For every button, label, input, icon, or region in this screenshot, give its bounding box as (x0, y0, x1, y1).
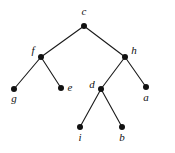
tree-node-a[interactable] (143, 84, 149, 90)
tree-edge-c-h (84, 26, 125, 57)
tree-edge-d-i (80, 89, 101, 127)
tree-diagram: cfhgedaib (0, 0, 175, 153)
tree-node-b[interactable] (119, 124, 125, 130)
tree-node-f[interactable] (38, 54, 44, 60)
tree-edge-c-f (41, 26, 84, 57)
tree-node-label-b: b (119, 131, 125, 143)
tree-node-e[interactable] (58, 85, 64, 91)
tree-edge-h-a (125, 57, 146, 87)
tree-node-h[interactable] (122, 54, 128, 60)
tree-node-label-i: i (78, 131, 81, 143)
tree-edge-f-g (14, 57, 41, 89)
nodes-layer (11, 23, 149, 130)
tree-node-label-h: h (131, 44, 137, 56)
edges-layer (14, 26, 146, 127)
tree-node-i[interactable] (77, 124, 83, 130)
tree-node-d[interactable] (98, 86, 104, 92)
tree-edge-f-e (41, 57, 61, 88)
tree-node-label-d: d (89, 78, 95, 90)
tree-node-label-c: c (82, 5, 87, 17)
labels-layer: cfhgedaib (11, 5, 149, 143)
tree-node-label-g: g (11, 92, 17, 104)
tree-edge-d-b (101, 89, 122, 127)
tree-node-label-e: e (68, 81, 73, 93)
tree-node-c[interactable] (81, 23, 87, 29)
tree-node-label-a: a (143, 91, 149, 103)
tree-graph-canvas: cfhgedaib (0, 0, 175, 153)
tree-node-label-f: f (31, 44, 36, 56)
tree-edge-h-d (101, 57, 125, 89)
